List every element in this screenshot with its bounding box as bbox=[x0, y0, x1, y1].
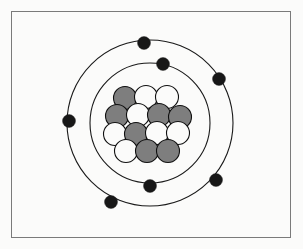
screenshot-root bbox=[0, 0, 303, 249]
nucleus-group bbox=[104, 86, 192, 163]
nucleon-proton bbox=[157, 140, 180, 163]
electron-l-shell bbox=[213, 73, 226, 86]
electron-k-shell bbox=[157, 58, 170, 71]
electron-l-shell bbox=[210, 174, 223, 187]
electron-l-shell bbox=[63, 115, 76, 128]
nucleon-neutron bbox=[115, 140, 138, 163]
electron-l-shell bbox=[105, 196, 118, 209]
bohr-model-diagram bbox=[0, 0, 303, 249]
nucleon-proton bbox=[136, 140, 159, 163]
electron-l-shell bbox=[138, 37, 151, 50]
electron-k-shell bbox=[144, 180, 157, 193]
